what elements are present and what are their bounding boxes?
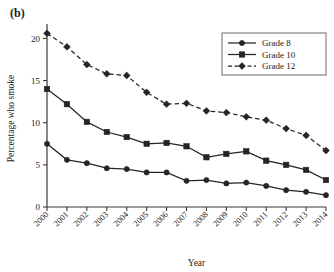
data-point-marker	[144, 170, 149, 175]
data-point-marker	[224, 181, 229, 186]
x-tick-label: 2006	[151, 209, 170, 228]
data-point-marker	[44, 30, 51, 37]
data-point-marker	[244, 149, 249, 154]
data-point-marker	[264, 183, 269, 188]
data-point-marker	[239, 52, 244, 57]
y-axis-title: Percentage who smoke	[6, 75, 16, 163]
data-point-marker	[64, 157, 69, 162]
data-point-marker	[104, 129, 109, 134]
data-point-marker	[184, 178, 189, 183]
data-point-marker	[283, 125, 290, 132]
x-axis-title: Year	[188, 258, 206, 268]
data-point-marker	[239, 40, 244, 45]
y-tick-label: 10	[31, 118, 41, 128]
data-point-marker	[84, 119, 89, 124]
legend: Grade 8Grade 10Grade 12	[222, 33, 326, 75]
data-point-marker	[203, 108, 210, 115]
y-axis-ticks: 05101520	[31, 34, 47, 213]
data-point-marker	[44, 86, 49, 91]
data-point-marker	[144, 141, 149, 146]
data-point-marker	[204, 155, 209, 160]
x-tick-label: 2012	[270, 209, 289, 228]
legend-label: Grade 10	[262, 50, 296, 60]
data-point-marker	[264, 158, 269, 163]
data-point-marker	[263, 117, 270, 124]
data-point-marker	[323, 177, 328, 182]
figure-panel-b: (b) 05101520 200020012002200320042005200…	[0, 0, 334, 272]
x-tick-label: 2001	[51, 209, 70, 228]
data-point-marker	[204, 177, 209, 182]
data-point-marker	[224, 151, 229, 156]
x-axis-ticks: 2000200120022003200420052006200720082009…	[31, 207, 330, 228]
data-point-marker	[323, 193, 328, 198]
data-point-marker	[124, 166, 129, 171]
legend-label: Grade 12	[262, 61, 295, 71]
series-line	[47, 144, 326, 195]
data-point-marker	[303, 132, 310, 139]
x-tick-label: 2004	[111, 209, 131, 229]
y-tick-label: 5	[36, 160, 41, 170]
x-tick-label: 2003	[91, 209, 110, 228]
data-point-marker	[103, 70, 110, 77]
data-point-marker	[303, 167, 308, 172]
data-point-marker	[284, 188, 289, 193]
x-tick-label: 2000	[31, 209, 50, 228]
data-point-marker	[303, 189, 308, 194]
data-point-marker	[64, 43, 71, 50]
data-point-marker	[124, 134, 129, 139]
x-tick-label: 2013	[290, 209, 309, 228]
data-point-marker	[183, 100, 190, 107]
data-point-marker	[44, 141, 49, 146]
data-point-marker	[123, 72, 130, 79]
data-point-marker	[164, 140, 169, 145]
data-point-marker	[223, 109, 230, 116]
series-grade-8	[44, 141, 328, 198]
data-point-marker	[243, 113, 250, 120]
x-tick-label: 2007	[171, 209, 190, 228]
data-point-marker	[244, 180, 249, 185]
x-tick-label: 2011	[251, 209, 270, 228]
y-tick-label: 0	[36, 202, 41, 212]
x-tick-label: 2005	[131, 209, 150, 228]
x-tick-label: 2009	[211, 209, 230, 228]
data-point-marker	[164, 170, 169, 175]
legend-label: Grade 8	[262, 38, 291, 48]
line-chart: 05101520 2000200120022003200420052006200…	[0, 0, 334, 272]
data-point-marker	[64, 101, 69, 106]
y-tick-label: 15	[31, 76, 41, 86]
x-tick-label: 2014	[310, 209, 330, 229]
x-tick-label: 2008	[191, 209, 210, 228]
data-point-marker	[283, 162, 288, 167]
data-point-marker	[163, 101, 170, 108]
x-tick-label: 2010	[231, 209, 250, 228]
x-tick-label: 2002	[71, 209, 90, 228]
data-point-marker	[104, 166, 109, 171]
data-point-marker	[184, 144, 189, 149]
data-point-marker	[84, 161, 89, 166]
y-tick-label: 20	[31, 34, 41, 44]
